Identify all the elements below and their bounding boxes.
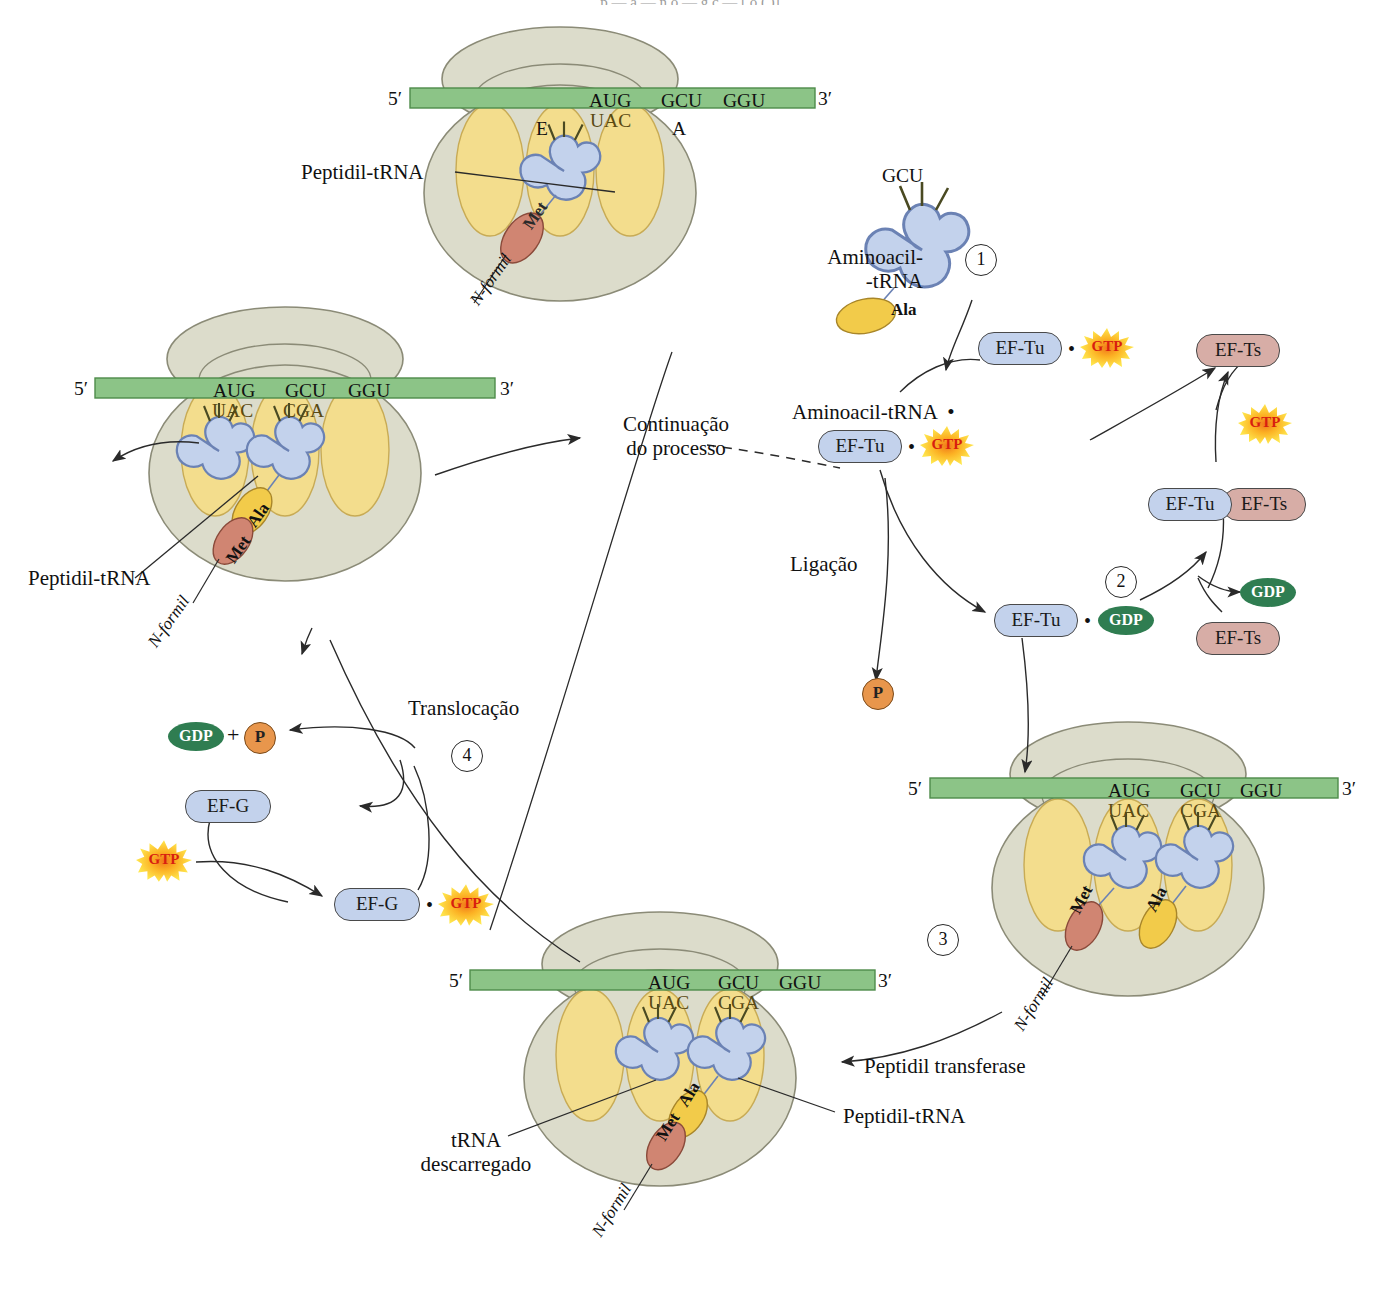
node-gtp-incoming-label: GTP (1238, 414, 1292, 431)
node-eftu-upper: EF-Tu (978, 332, 1062, 365)
step-number-3: 3 (927, 924, 959, 956)
node-efts-released: EF-Ts (1196, 334, 1280, 367)
label-peptidil-trna-left: Peptidil-tRNA (28, 566, 151, 590)
node-gtp-upper-label: GTP (1080, 338, 1134, 355)
node-gdp-released: GDP (1240, 578, 1296, 607)
arrow-gdp-p-release (290, 727, 415, 748)
node-efg-free: EF-G (185, 790, 271, 823)
dot-eftu-gtp-upper: • (1068, 338, 1075, 361)
codon-ggu-right: GGU (1240, 780, 1282, 802)
anticodon-cga-bottom: CGA (718, 992, 759, 1014)
mrna-5prime-top: 5′ (388, 88, 402, 110)
dot-eftu-gdp: • (1084, 610, 1091, 633)
arrow-up-to-left-ribosome (302, 628, 312, 654)
label-peptidil-transferase: Peptidil transferase (864, 1054, 1026, 1078)
arrow-complex-to-eftugdp (880, 470, 985, 612)
label-trna-descarregado-line1: tRNA (451, 1128, 501, 1152)
node-gtp-incoming: GTP (1238, 404, 1292, 444)
step-number-2: 2 (1105, 566, 1137, 598)
codon-ggu-bottom: GGU (779, 972, 821, 994)
mrna-3prime-bottom: 3′ (878, 970, 892, 992)
label-peptidil-trna-bottom: Peptidil-tRNA (843, 1104, 966, 1128)
node-gtp-efg-bound-label: GTP (438, 895, 494, 912)
node-phosphate-ligacao: P (862, 678, 894, 710)
node-gtp-complex: GTP (920, 426, 974, 466)
label-continuacao-do-processo: Continuaçãodo processo (586, 412, 766, 460)
node-eftu-complex: EF-Tu (818, 430, 902, 463)
node-efts-in-fusion: EF-Ts (1222, 488, 1306, 521)
dot-eftu-gtp-complex: • (908, 436, 915, 459)
figure-canvas: p — a — n o — g ç — [ o ( )] (0, 0, 1380, 1299)
amino-acid-ala-free: Ala (891, 300, 917, 320)
arrow-efg-release (360, 760, 404, 807)
node-efg-bound: EF-G (334, 888, 420, 921)
plus-sign-efg: + (227, 722, 239, 747)
label-trna-descarregado: tRNAdescarregado (406, 1128, 546, 1176)
site-a-top: A (672, 118, 686, 140)
node-gdp-efg-release: GDP (168, 722, 224, 751)
node-eftu-gdp: EF-Tu (994, 604, 1078, 637)
anticodon-cga-left: CGA (283, 400, 324, 422)
node-gdp-bound: GDP (1098, 606, 1154, 635)
label-aminoacil-trna-line2: -tRNA (866, 269, 923, 293)
anticodon-uac-right: UAC (1108, 800, 1149, 822)
dot-efg-gtp: • (426, 894, 433, 917)
codon-ggu-top: GGU (723, 90, 765, 112)
anticodon-uac-bottom: UAC (648, 992, 689, 1014)
label-continuacao-line2: do processo (626, 436, 726, 460)
arrow-eftugdp-to-eftuefts (1140, 552, 1206, 600)
mrna-5prime-left: 5′ (74, 378, 88, 400)
node-gtp-complex-label: GTP (920, 436, 974, 453)
label-aminoacil-trna-line1: Aminoacil- (827, 245, 923, 269)
node-gtp-efg-free-label: GTP (136, 851, 192, 868)
mrna-5prime-bottom: 5′ (449, 970, 463, 992)
site-e-top: E (536, 118, 548, 140)
step-number-4: 4 (451, 740, 483, 772)
mrna-3prime-right: 3′ (1342, 778, 1356, 800)
mrna-3prime-left: 3′ (500, 378, 514, 400)
arrow-gtp-to-efg (196, 861, 322, 896)
mrna-3prime-top: 3′ (818, 88, 832, 110)
arrow-eftugtp-to-complex (900, 359, 980, 392)
node-eftu-in-fusion: EF-Tu (1148, 488, 1232, 521)
arrow-efts-release (1215, 372, 1228, 462)
node-gtp-efg-bound: GTP (438, 884, 494, 926)
label-peptidil-trna-top: Peptidil-tRNA (301, 160, 424, 184)
label-trna-descarregado-line2: descarregado (421, 1152, 532, 1176)
ribosome-right (992, 722, 1264, 996)
label-aminoacil-trna-free: Aminoacil--tRNA (793, 245, 923, 293)
anticodon-cga-free: GCU (882, 165, 923, 187)
arrow-efggtp-up (414, 766, 429, 890)
label-ligacao: Ligação (790, 552, 858, 576)
mrna-5prime-right: 5′ (908, 778, 922, 800)
arrow-phosphate-release (876, 478, 888, 680)
codon-ggu-left: GGU (348, 380, 390, 402)
anticodon-uac-top: UAC (590, 110, 631, 132)
label-continuacao-line1: Continuação (623, 412, 729, 436)
arrow-left-to-continuation (435, 438, 580, 475)
label-aminoacil-trna-complex: Aminoacil-tRNA • (792, 400, 955, 424)
ribosome-top (424, 27, 696, 303)
anticodon-cga-right: CGA (1180, 800, 1221, 822)
arrow-eftuefts-to-eftugtp (1090, 368, 1215, 440)
step-number-1: 1 (965, 244, 997, 276)
node-efts-free: EF-Ts (1196, 622, 1280, 655)
node-gtp-efg-free: GTP (136, 840, 192, 882)
node-gtp-upper: GTP (1080, 328, 1134, 368)
ribosome-bottom (524, 912, 796, 1210)
codon-gcu-top: GCU (661, 90, 702, 112)
label-translocacao: Translocação (408, 696, 519, 720)
anticodon-uac-left: UAC (212, 400, 253, 422)
node-phosphate-efg-release: P (244, 722, 276, 754)
